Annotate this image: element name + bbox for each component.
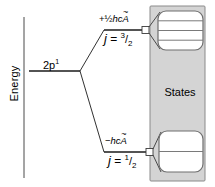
- shift-expression-lower: hcA~: [111, 135, 127, 146]
- a-tilde-symbol: A~: [123, 14, 129, 24]
- shift-sign-lower: −: [105, 135, 111, 146]
- j-quantum-number-upper: j = 3/2: [104, 32, 133, 48]
- j-denominator-upper: 2: [128, 39, 132, 48]
- shift-expression-upper: hcA~: [113, 13, 129, 24]
- j-quantum-number-lower: j = 1/2: [108, 154, 137, 170]
- connector-parent-to-lower: [80, 71, 104, 152]
- j-equals-lower: =: [114, 154, 121, 168]
- term-base: 2p: [43, 59, 55, 71]
- j-symbol-lower: j: [108, 153, 111, 168]
- energy-level-diagram: Energy 2p1 +½hcA~ j = 3/2 −hcA~ j = 1/2 …: [0, 0, 215, 187]
- a-tilde-symbol: A~: [121, 136, 127, 146]
- lower-callout-knob: [146, 149, 153, 156]
- states-column-label: States: [152, 87, 208, 98]
- upper-callout-knob: [142, 27, 149, 34]
- energy-shift-label-upper: +½hcA~: [99, 14, 129, 24]
- j-equals-upper: =: [110, 32, 117, 46]
- term-superscript: 1: [55, 58, 59, 65]
- energy-shift-label-lower: −hcA~: [105, 136, 127, 146]
- tilde-accent: ~: [121, 130, 127, 139]
- tilde-accent: ~: [123, 8, 129, 17]
- energy-axis-label: Energy: [9, 48, 20, 120]
- j-symbol-upper: j: [104, 31, 107, 46]
- connector-parent-to-upper: [80, 30, 104, 71]
- j-denominator-lower: 2: [132, 161, 136, 170]
- shift-coefficient-upper: ½: [105, 13, 113, 24]
- level-label-parent: 2p1: [43, 58, 59, 71]
